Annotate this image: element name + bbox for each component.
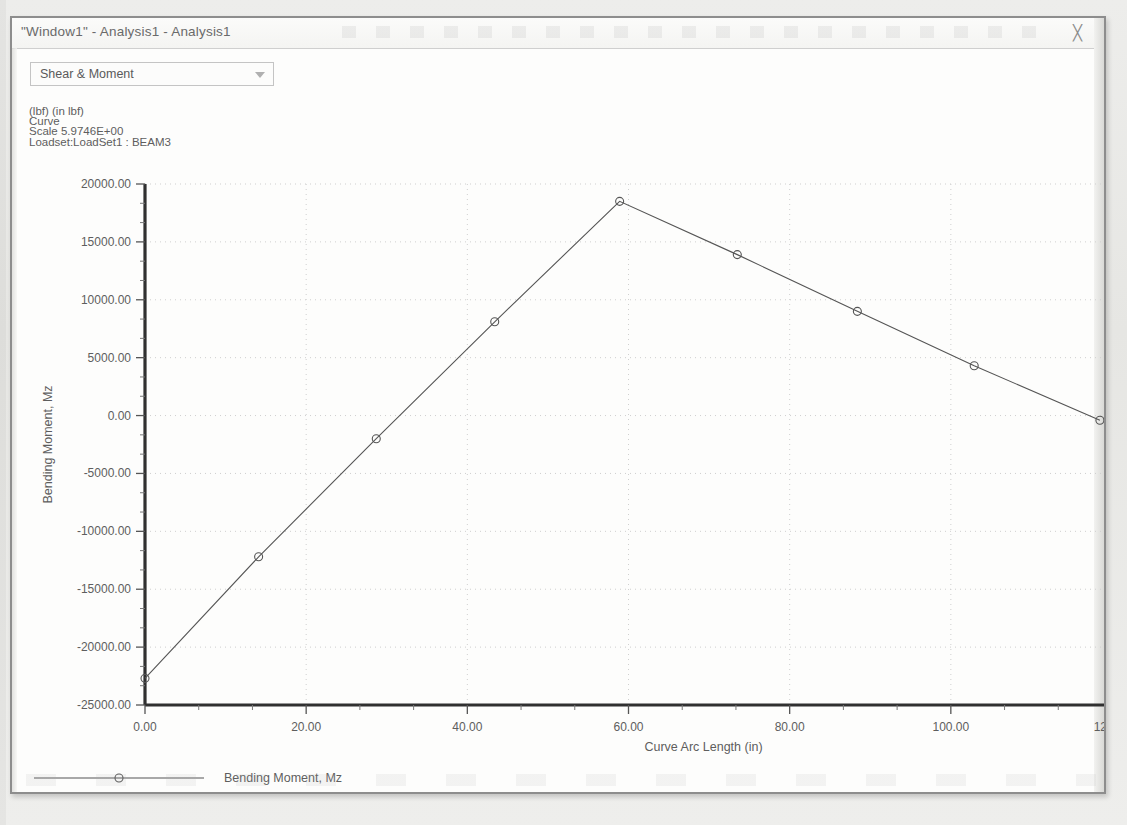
chart-area: -25000.00-20000.00-15000.00-10000.00-500… [12, 18, 1106, 794]
y-tick-label: 10000.00 [81, 293, 131, 307]
y-axis-title: Bending Moment, Mz [41, 385, 55, 503]
x-axis-title: Curve Arc Length (in) [644, 740, 762, 754]
y-tick-label: 5000.00 [88, 351, 132, 365]
x-tick-label: 40.00 [452, 720, 482, 734]
analysis-window: "Window1" - Analysis1 - Analysis1 ╳ Shea… [10, 16, 1106, 794]
y-tick-label: -20000.00 [77, 640, 131, 654]
x-tick-label: 120.00 [1094, 720, 1106, 734]
y-tick-label: -10000.00 [77, 524, 131, 538]
y-tick-label: 20000.00 [81, 177, 131, 191]
bending-moment-chart: -25000.00-20000.00-15000.00-10000.00-500… [12, 18, 1106, 794]
x-tick-label: 80.00 [775, 720, 805, 734]
x-tick-label: 20.00 [291, 720, 321, 734]
series-line [145, 201, 1100, 678]
y-tick-label: -25000.00 [77, 698, 131, 712]
y-tick-label: -5000.00 [84, 466, 132, 480]
y-tick-label: -15000.00 [77, 582, 131, 596]
x-tick-label: 100.00 [932, 720, 969, 734]
x-tick-label: 60.00 [613, 720, 643, 734]
x-tick-label: 0.00 [133, 720, 157, 734]
y-tick-label: 0.00 [108, 409, 132, 423]
scan-artifact [26, 774, 1096, 786]
y-tick-label: 15000.00 [81, 235, 131, 249]
